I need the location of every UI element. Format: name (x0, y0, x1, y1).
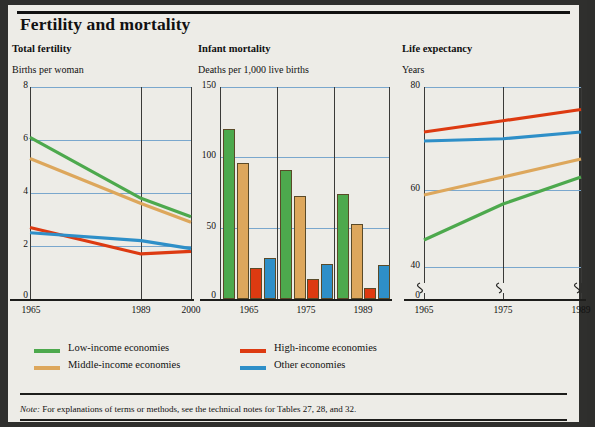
chart-total-fertility: 8 6 4 2 0 1965 1989 2000 (8, 77, 198, 327)
ytick-100: 100 (192, 150, 216, 160)
vline-sep-2 (334, 87, 335, 299)
panel-units-life-expectancy: Years (402, 64, 424, 75)
ytick-0: 0 (192, 290, 216, 300)
bar-1975-middle-income-economies (294, 196, 306, 299)
bar-1965-middle-income-economies (237, 163, 249, 299)
legend-label-middle-income: Middle-income economies (68, 359, 180, 370)
bottom-rule (20, 419, 567, 421)
note-text: For explanations of terms or methods, se… (40, 404, 356, 414)
panel-units-infant-mortality: Deaths per 1,000 live births (198, 64, 309, 75)
xtick-1965: 1965 (231, 305, 267, 315)
middle-rule (20, 393, 567, 395)
bar-1965-high-income-economies (250, 268, 262, 299)
axis-break-marks (402, 77, 595, 327)
ytick-150: 150 (192, 80, 216, 90)
figure-note: Note: For explanations of terms or metho… (20, 404, 356, 414)
note-prefix: Note: (20, 404, 40, 414)
fertility-lines (8, 77, 198, 327)
bar-1989-middle-income-economies (351, 224, 363, 299)
bar-1989-low-income-economies (337, 194, 349, 299)
xtick-1975: 1975 (288, 305, 324, 315)
legend-swatch-low-income (34, 349, 60, 353)
chart-infant-mortality: 150 100 50 0 1965 1975 1989 (198, 77, 398, 327)
legend-swatch-high-income (240, 349, 266, 353)
legend-swatch-other (240, 366, 266, 370)
bar-1989-other-economies (378, 265, 390, 299)
gridline-150 (220, 87, 390, 88)
vline-sep-1 (277, 87, 278, 299)
x-axis (200, 299, 392, 301)
legend-label-other: Other economies (274, 359, 345, 370)
vline-left (220, 87, 221, 299)
bar-1975-high-income-economies (307, 279, 319, 299)
panel-title-total-fertility: Total fertility (12, 43, 71, 54)
bar-1975-other-economies (321, 264, 333, 299)
legend-swatch-middle-income (34, 366, 60, 370)
legend-label-low-income: Low-income economies (68, 342, 169, 353)
figure-title: Fertility and mortality (20, 14, 190, 35)
panel-units-total-fertility: Births per woman (12, 64, 84, 75)
panel-title-infant-mortality: Infant mortality (198, 43, 271, 54)
gridline-100 (220, 157, 390, 158)
bar-1965-low-income-economies (223, 129, 235, 299)
figure-sheet: Fertility and mortality Total fertility … (8, 5, 579, 422)
bar-1965-other-economies (264, 258, 276, 299)
bar-1975-low-income-economies (280, 170, 292, 299)
bar-1989-high-income-economies (364, 288, 376, 299)
ytick-50: 50 (192, 221, 216, 231)
xtick-1989: 1989 (345, 305, 381, 315)
legend-label-high-income: High-income economies (274, 342, 377, 353)
chart-life-expectancy: 80 60 40 0 1965 1975 1989 (402, 77, 595, 327)
panel-title-life-expectancy: Life expectancy (402, 43, 472, 54)
